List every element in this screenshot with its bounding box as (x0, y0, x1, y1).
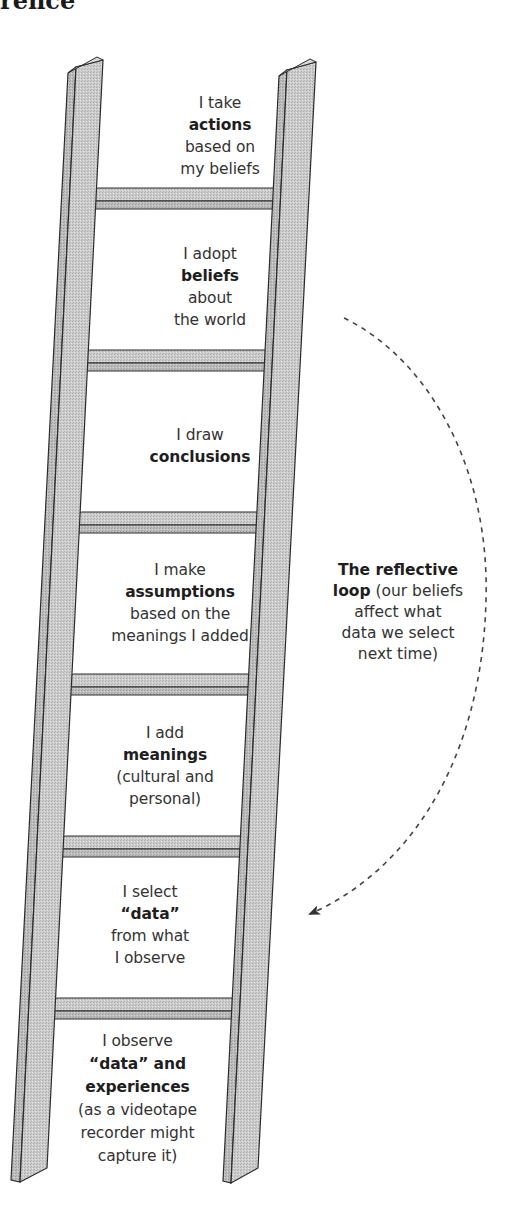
rung-line: capture it) (50, 1145, 225, 1168)
rung-label-conclusions: I draw conclusions (125, 424, 275, 468)
rung-keyword: experiences (50, 1076, 225, 1099)
rung-label-beliefs: I adopt beliefs about the world (140, 243, 280, 331)
rung-line: I take (150, 92, 290, 114)
rung-line: personal) (80, 788, 250, 810)
rung-top (31, 998, 244, 1011)
rung-line: I select (65, 881, 235, 903)
loop-text: next time) (318, 644, 478, 665)
rung-label-observe-data: I observe “data” and experiences (as a v… (50, 1030, 225, 1168)
rung-label-actions: I take actions based on my beliefs (150, 92, 290, 180)
rung-line: recorder might (50, 1122, 225, 1145)
rung-front (31, 1011, 244, 1019)
rung-line: I draw (125, 424, 275, 446)
rung-keyword: “data” (65, 903, 235, 925)
rung-keyword: “data” and (50, 1053, 225, 1076)
rung-keyword: beliefs (140, 265, 280, 287)
rung-label-assumptions: I make assumptions based on the meanings… (85, 559, 275, 647)
rung-label-meanings: I add meanings (cultural and personal) (80, 722, 250, 810)
rung-keyword: meanings (80, 744, 250, 766)
rung-line: I observe (65, 947, 235, 969)
rung-line: based on (150, 136, 290, 158)
rung-top (64, 350, 277, 363)
rung-keyword: actions (150, 114, 290, 136)
rung-line: my beliefs (150, 158, 290, 180)
rung-line: I make (85, 559, 275, 581)
loop-title: The reflective (338, 561, 458, 579)
rung-keyword: conclusions (125, 446, 275, 468)
rung-front (72, 201, 285, 209)
rung-top (72, 188, 285, 201)
rung-line: meanings I added (85, 625, 275, 647)
loop-title: loop (333, 582, 371, 600)
rung-line: I observe (50, 1030, 225, 1053)
rung-line: the world (140, 309, 280, 331)
rung-line: I add (80, 722, 250, 744)
ladder-of-inference-diagram: rence (0, 0, 508, 1227)
rung-label-select-data: I select “data” from what I observe (65, 881, 235, 969)
rung-line: (as a videotape (50, 1099, 225, 1122)
rung-front (47, 687, 260, 695)
rung-line: about (140, 287, 280, 309)
rung-line: based on the (85, 603, 275, 625)
loop-text: (our beliefs (371, 582, 464, 600)
rung-top (47, 674, 260, 687)
rung-top (39, 836, 252, 849)
rung-line: (cultural and (80, 766, 250, 788)
loop-text: affect what (318, 602, 478, 623)
loop-text: data we select (318, 623, 478, 644)
rung-keyword: assumptions (85, 581, 275, 603)
rung-top (56, 512, 269, 525)
reflective-loop-caption: The reflective loop (our beliefs affect … (318, 560, 478, 665)
rung-line: from what (65, 925, 235, 947)
rung-front (39, 849, 252, 857)
rung-line: I adopt (140, 243, 280, 265)
rung-front (64, 363, 277, 371)
rung-front (56, 525, 269, 533)
